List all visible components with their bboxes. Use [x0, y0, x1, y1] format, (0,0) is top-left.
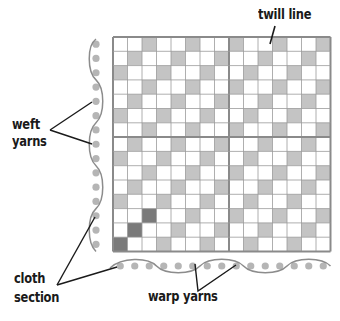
weave-cell [215, 109, 230, 123]
weave-cell [171, 66, 186, 80]
weave-cell [113, 123, 128, 137]
warp-yarns-illustration [110, 259, 331, 273]
weave-cell [215, 80, 230, 94]
weave-cell [273, 109, 288, 123]
weave-cell [113, 37, 128, 51]
weave-cell [113, 223, 128, 237]
weave-cell [244, 109, 259, 123]
weave-cell [215, 94, 230, 108]
weave-cell [273, 223, 288, 237]
weave-cell [171, 51, 186, 65]
weave-cell [128, 194, 143, 208]
weave-cell [186, 151, 201, 165]
weave-cell [142, 137, 157, 151]
weave-cell [113, 166, 128, 180]
weave-cell [142, 123, 157, 137]
weave-cell [200, 180, 215, 194]
weave-cell [273, 123, 288, 137]
weave-cell [142, 66, 157, 80]
weave-cell [128, 151, 143, 165]
weave-cell [215, 237, 230, 251]
weave-cell [302, 94, 317, 108]
weave-cell [157, 223, 172, 237]
weave-cell [215, 223, 230, 237]
weave-cell [316, 223, 331, 237]
weave-cell [302, 194, 317, 208]
weave-cell [244, 94, 259, 108]
weave-cell [157, 180, 172, 194]
weave-cell [316, 151, 331, 165]
weave-cell [244, 66, 259, 80]
weave-cell [258, 223, 273, 237]
weave-cell [186, 51, 201, 65]
weave-cell [229, 166, 244, 180]
weave-cell [244, 166, 259, 180]
weave-cell [302, 237, 317, 251]
weave-cell [215, 66, 230, 80]
weave-cell [302, 51, 317, 65]
weave-cell [287, 66, 302, 80]
weave-cell [186, 94, 201, 108]
weave-cell [244, 151, 259, 165]
weave-cell [302, 209, 317, 223]
cloth-label-line1: cloth [14, 270, 45, 287]
weave-cell [157, 151, 172, 165]
weave-cell [229, 94, 244, 108]
weave-cell [302, 166, 317, 180]
weave-cell [186, 137, 201, 151]
weave-cell [302, 123, 317, 137]
weave-cell [273, 180, 288, 194]
weave-cell [244, 223, 259, 237]
weave-cell [142, 166, 157, 180]
weave-cell [258, 166, 273, 180]
weave-cell [273, 151, 288, 165]
weave-cell [244, 51, 259, 65]
weave-cell [142, 51, 157, 65]
weave-cell [258, 94, 273, 108]
weave-cell [258, 123, 273, 137]
weave-cell [157, 66, 172, 80]
weave-cell [229, 123, 244, 137]
weave-cell [171, 237, 186, 251]
weave-cell [287, 151, 302, 165]
weave-cell [113, 151, 128, 165]
weave-cell [258, 37, 273, 51]
weave-cell [186, 80, 201, 94]
weave-cell [258, 151, 273, 165]
weave-cell [128, 209, 143, 223]
weave-cell [128, 223, 143, 237]
weft-yarns-illustration [89, 39, 103, 252]
weave-cell [186, 166, 201, 180]
weave-cell [186, 209, 201, 223]
weave-cell [258, 51, 273, 65]
weave-cell [113, 237, 128, 251]
weave-cell [229, 237, 244, 251]
weave-cell [302, 180, 317, 194]
weave-cell [186, 180, 201, 194]
weave-cell [186, 109, 201, 123]
weave-cell [258, 194, 273, 208]
weave-cell [287, 194, 302, 208]
weave-cell [273, 209, 288, 223]
weave-cell [171, 209, 186, 223]
weave-cell [244, 237, 259, 251]
weave-cell [316, 51, 331, 65]
weave-cell [200, 80, 215, 94]
weave-cell [200, 237, 215, 251]
weave-cell [142, 209, 157, 223]
weave-cell [244, 209, 259, 223]
weave-cell [200, 109, 215, 123]
warp-leader [195, 264, 236, 291]
weave-cell [316, 166, 331, 180]
weave-cell [287, 37, 302, 51]
weave-cell [229, 209, 244, 223]
weave-cell [128, 94, 143, 108]
weave-cell [215, 123, 230, 137]
weave-cell [113, 137, 128, 151]
weave-cell [229, 66, 244, 80]
weave-cell [200, 123, 215, 137]
weave-cell [186, 123, 201, 137]
weave-cell [215, 51, 230, 65]
weave-cell [316, 37, 331, 51]
weave-cell [215, 180, 230, 194]
